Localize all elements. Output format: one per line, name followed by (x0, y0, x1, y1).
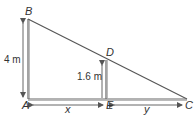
label-e: E (106, 99, 114, 111)
segment-ab (28, 19, 30, 99)
label-d: D (106, 46, 114, 58)
triangle-diagram: B A D E C 4 m 1.6 m x y (0, 0, 194, 117)
segment-ed (106, 60, 108, 99)
label-c: C (185, 99, 193, 111)
measure-ab: 4 m (4, 54, 21, 65)
measure-x: x (64, 103, 71, 115)
label-a: A (21, 99, 29, 111)
label-b: B (25, 5, 32, 17)
measure-ed: 1.6 m (77, 71, 102, 82)
